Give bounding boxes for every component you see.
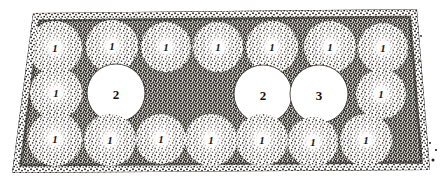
grain-m5[interactable]: 3 <box>290 65 348 123</box>
grain-label-m5: 3 <box>316 88 323 103</box>
grain-t3[interactable]: 1 <box>141 22 191 72</box>
grain-packing-diagram: 1 1 1 1 <box>0 0 443 185</box>
grain-label-b4: 1 <box>208 134 214 146</box>
grain-label-t6: 1 <box>327 41 333 53</box>
grain-label-t3: 1 <box>163 41 169 53</box>
grain-label-t7: 1 <box>380 42 386 54</box>
grain-label-b1: 1 <box>52 133 58 145</box>
grain-t7[interactable]: 1 <box>358 23 408 73</box>
grain-label-m6: 1 <box>378 88 384 100</box>
grain-label-m2: 2 <box>113 87 120 102</box>
grain-m1[interactable]: 1 <box>30 67 82 119</box>
grain-label-t2: 1 <box>109 40 115 52</box>
grain-b7[interactable]: 1 <box>340 114 392 166</box>
grain-t5[interactable]: 1 <box>246 21 298 73</box>
grain-label-t1: 1 <box>52 42 58 54</box>
grain-t4[interactable]: 1 <box>193 22 243 72</box>
grain-label-b6: 1 <box>310 136 316 148</box>
grain-b5[interactable]: 1 <box>236 114 288 166</box>
grain-label-t4: 1 <box>215 41 221 53</box>
grain-label-m1: 1 <box>53 87 59 99</box>
grain-label-b5: 1 <box>259 134 265 146</box>
grain-label-m4: 2 <box>260 88 267 103</box>
grain-label-t5: 1 <box>269 41 275 53</box>
grain-label-b2: 1 <box>107 134 113 146</box>
grain-b6[interactable]: 1 <box>288 117 338 167</box>
grain-t6[interactable]: 1 <box>304 21 356 73</box>
grain-b4[interactable]: 1 <box>185 114 237 166</box>
grain-b3[interactable]: 1 <box>136 114 186 164</box>
grain-label-b3: 1 <box>158 133 164 145</box>
grain-m6[interactable]: 1 <box>356 69 406 119</box>
grain-b2[interactable]: 1 <box>84 114 136 166</box>
grain-b1[interactable]: 1 <box>28 112 82 166</box>
grain-label-b7: 1 <box>363 134 369 146</box>
grain-m2[interactable]: 2 <box>87 64 145 122</box>
figure-root: 1 1 1 1 <box>0 0 443 185</box>
